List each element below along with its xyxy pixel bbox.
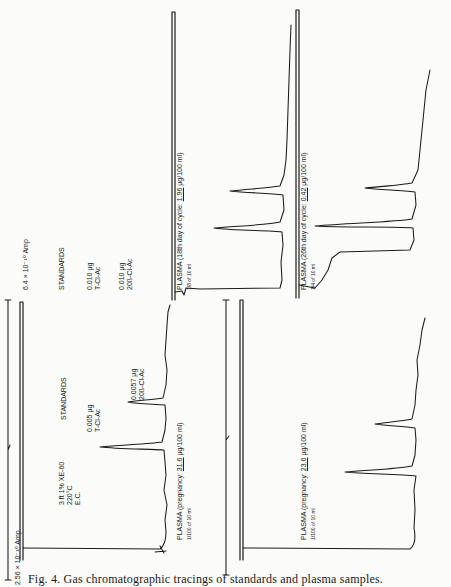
standards-top-peak2-compound: 20ß-Cl-Ac (138, 368, 146, 400)
conditions-detector: E.C. (74, 491, 82, 505)
standards-bottom-title: STANDARDS (58, 247, 66, 290)
title-value: 0.42 (300, 188, 307, 202)
standards-top-peak1-amount: 0.005 μg (86, 405, 94, 432)
standards-bottom-peak2-compound: 20ß-Cl-Ac (126, 258, 134, 290)
scale-top-label: 2.56 × 10⁻¹⁰ Amp (14, 530, 22, 585)
plasma-18th-fraction: 1/8 of 10 ml (186, 264, 192, 290)
plasma-pregnancy-31-fraction: 1/100 of 10 ml (186, 508, 192, 540)
title-suffix: μg/100 ml) (300, 152, 307, 187)
plasma-pregnancy-23-title: PLASMA (pregnancy: 23.6 μg/100 ml) (300, 422, 308, 540)
title-prefix: PLASMA (18th day of cycle: (176, 201, 183, 290)
title-value: 31.6 (176, 458, 183, 472)
standards-bottom-peak1-compound: T-Cl-Ac (94, 267, 102, 290)
standards-top-title: STANDARDS (60, 377, 68, 420)
standards-bottom-peak1-amount: 0.010 μg (86, 263, 94, 290)
plasma-26th-fraction: 1/4 of 10 ml (310, 264, 316, 290)
title-suffix: μg/100 ml) (176, 422, 183, 457)
plasma-pregnancy-31-title: PLASMA (pregnancy: 31.6 μg/100 ml) (176, 422, 184, 540)
title-value: 1.96 (176, 188, 183, 202)
conditions-temperature: 220°C (66, 485, 74, 505)
standards-top-peak1-compound: T-Cl-Ac (94, 409, 102, 432)
title-suffix: μg/100 ml) (300, 422, 307, 457)
standards-bottom-peak2-amount: 0.010 μg (118, 263, 126, 290)
plasma-18th-title: PLASMA (18th day of cycle: 1.96 μg/100 m… (176, 152, 184, 290)
scale-bottom-label: 6.4 × 10⁻¹⁰ Amp (22, 239, 30, 290)
title-suffix: μg/100 ml) (176, 152, 183, 187)
title-value: 23.6 (300, 458, 307, 472)
conditions-column: 3 ft 1% XE-60 (58, 462, 66, 505)
plasma-pregnancy-23-fraction: 1/100 of 10 ml (310, 508, 316, 540)
standards-top-peak2-amount: 0.0057 μg (130, 369, 138, 400)
plasma-26th-title: PLASMA (26th day of cycle: 0.42 μg/100 m… (300, 152, 308, 290)
title-prefix: PLASMA (pregnancy: (300, 471, 307, 540)
title-prefix: PLASMA (26th day of cycle: (300, 201, 307, 290)
title-prefix: PLASMA (pregnancy: (176, 471, 183, 540)
figure-caption: Fig. 4. Gas chromatographic tracings of … (28, 572, 383, 587)
